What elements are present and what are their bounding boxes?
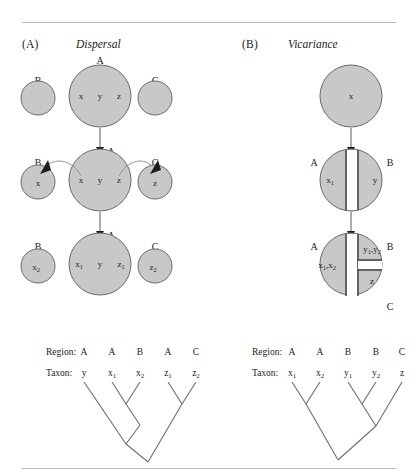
clado-b-root-right	[338, 426, 376, 460]
panel-b-region-3: B	[345, 347, 351, 357]
panel-a-region-key: Region:	[46, 347, 76, 357]
panel-b-taxon-4: y2	[372, 368, 380, 378]
stage-a2-taxon-x-in-b: x	[36, 178, 41, 188]
panel-a-region-5: C	[193, 347, 199, 357]
top-divider-rule	[22, 22, 396, 23]
panel-a-region-3: B	[137, 347, 143, 357]
clado-a-branch-y	[84, 382, 126, 444]
stage-a2-taxon-z-in-c: z	[153, 178, 157, 188]
panel-b-region-key: Region:	[252, 347, 282, 357]
panel-a-taxon-key: Taxon:	[46, 368, 72, 378]
panel-a-taxon-1: y	[82, 368, 87, 378]
stage-a2-taxon-z: z	[117, 175, 121, 185]
stage-b3-barrier-horiz-gap	[358, 261, 382, 269]
clado-b-branch-x1	[292, 382, 306, 404]
stage-b3-region-c-letter: C	[387, 301, 394, 312]
stage-b3-barrier-vert-gap	[347, 234, 357, 296]
stage-b2-region-a-letter: A	[310, 157, 318, 168]
panel-a-cladogram	[0, 382, 210, 467]
panel-b-taxon-1: x1	[288, 368, 296, 378]
stage-a2-taxon-y: y	[98, 175, 103, 185]
stage-b2-barrier-gap	[347, 150, 357, 210]
clado-a-node-left	[126, 425, 140, 444]
panel-b-diagram: x A B x1 y A B C x1,x2 y1,y2 z	[210, 52, 418, 352]
clado-a-root-left	[126, 444, 148, 462]
stage-a3-taxon-y: y	[98, 259, 103, 269]
panel-b-taxon-key: Taxon:	[252, 368, 278, 378]
panel-a-taxon-4: z1	[164, 368, 172, 378]
clado-b-internal-y	[362, 404, 376, 426]
clado-b-branch-y2	[362, 382, 376, 404]
stage-b3-taxa-y: y1,y2	[363, 244, 381, 255]
panel-b-region-1: A	[289, 347, 296, 357]
panel-b-taxon-2: x2	[316, 368, 324, 378]
panel-a-title: Dispersal	[76, 38, 121, 50]
panel-b-region-4: B	[373, 347, 379, 357]
figure-canvas: (A) Dispersal A B C x y z A B C x x y z …	[0, 0, 418, 476]
clado-a-branch-z1	[168, 382, 182, 404]
clado-a-root-right	[148, 404, 182, 462]
stage-b2-taxon-y: y	[373, 175, 378, 185]
panel-a-diagram: A B C x y z A B C x x y z z A B	[0, 52, 210, 352]
panel-a-taxon-3: x2	[136, 368, 144, 378]
stage-b3-taxon-z: z	[370, 276, 374, 286]
panel-b-region-2: A	[317, 347, 324, 357]
panel-b-cladogram	[210, 382, 418, 467]
stage-a1-circle-b	[21, 81, 55, 115]
stage-a1-taxon-z: z	[117, 91, 121, 101]
stage-a1-taxon-y: y	[98, 91, 103, 101]
panel-b-region-5: C	[399, 347, 405, 357]
clado-a-branch-x1	[112, 382, 126, 404]
panel-a-taxon-2: x1	[108, 368, 116, 378]
panel-b-taxon-3: y1	[344, 368, 352, 378]
stage-b2-region-b-letter: B	[387, 157, 394, 168]
panel-a-region-1: A	[81, 347, 88, 357]
clado-a-branch-z2	[182, 382, 196, 404]
clado-a-branch-x2	[126, 382, 140, 404]
clado-b-branch-y1	[348, 382, 362, 404]
panel-a-region-4: A	[165, 347, 172, 357]
stage-a2-taxon-x: x	[79, 175, 84, 185]
stage-b1-taxon-x: x	[349, 91, 354, 101]
panel-a-taxon-5: z2	[192, 368, 200, 378]
panel-a-region-2: A	[109, 347, 116, 357]
stage-a1-region-a-letter: A	[96, 55, 104, 66]
stage-a1-taxon-x: x	[79, 91, 84, 101]
stage-b3-region-b-letter: B	[387, 241, 394, 252]
clado-b-branch-x2	[306, 382, 320, 404]
panel-b-title: Vicariance	[288, 38, 338, 50]
clado-a-internal-x	[126, 404, 140, 425]
clado-b-branch-z	[376, 382, 402, 426]
clado-b-root-left	[306, 404, 338, 460]
panel-a-tag: (A)	[22, 38, 39, 50]
bottom-divider-rule	[22, 468, 396, 469]
panel-b-taxon-5: z	[400, 368, 404, 378]
stage-a1-circle-c	[138, 81, 172, 115]
stage-b3-region-a-letter: A	[310, 241, 318, 252]
panel-b-tag: (B)	[242, 38, 258, 50]
